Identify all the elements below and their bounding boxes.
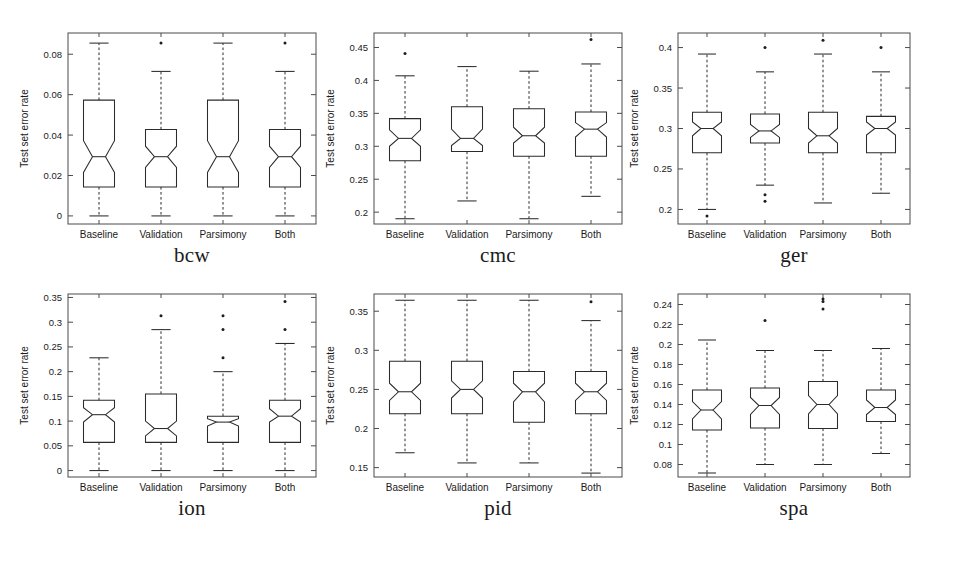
y-tick-label: 0.3 bbox=[49, 317, 62, 328]
y-tick-label: 0.2 bbox=[49, 366, 62, 377]
box-outline bbox=[514, 109, 545, 156]
y-tick-label: 0.24 bbox=[654, 299, 673, 310]
outlier-point bbox=[880, 46, 883, 49]
box-cmc-validation bbox=[452, 67, 483, 201]
y-tick-label: 0.08 bbox=[44, 49, 63, 60]
box-pid-validation bbox=[452, 300, 483, 463]
y-tick-label: 0 bbox=[57, 465, 62, 476]
y-axis-label: Test set error rate bbox=[325, 89, 336, 168]
y-tick-label: 0.1 bbox=[49, 416, 62, 427]
x-tick-label: Validation bbox=[139, 229, 182, 240]
axis-frame bbox=[374, 294, 622, 477]
panel-pid: 0.150.20.250.30.35Test set error rateBas… bbox=[312, 280, 634, 527]
box-pid-baseline bbox=[390, 300, 421, 453]
y-tick-label: 0.02 bbox=[44, 170, 63, 181]
box-outline bbox=[270, 400, 301, 442]
outlier-point bbox=[284, 300, 287, 303]
plot-bcw: 00.020.040.060.08Test set error rateBase… bbox=[6, 19, 328, 274]
box-outline bbox=[146, 394, 177, 442]
plot-cmc: 0.20.250.30.350.40.45Test set error rate… bbox=[312, 19, 634, 274]
panel-caption-ion: ion bbox=[68, 496, 316, 521]
x-tick-label: Baseline bbox=[688, 482, 727, 493]
outlier-point bbox=[160, 314, 163, 317]
y-tick-label: 0.18 bbox=[654, 359, 673, 370]
axis-frame bbox=[68, 33, 316, 224]
plot-ion: 00.050.10.150.20.250.30.35Test set error… bbox=[6, 280, 328, 527]
panel-caption-ger: ger bbox=[678, 243, 910, 268]
box-ion-validation bbox=[146, 314, 177, 470]
box-outline bbox=[452, 107, 483, 152]
panel-ger: 0.20.250.30.350.4Test set error rateBase… bbox=[616, 19, 922, 274]
box-bcw-validation bbox=[146, 42, 177, 216]
x-tick-label: Baseline bbox=[688, 229, 727, 240]
x-tick-label: Both bbox=[871, 229, 892, 240]
box-cmc-both bbox=[576, 38, 607, 196]
x-tick-label: Both bbox=[871, 482, 892, 493]
box-cmc-parsimony bbox=[514, 71, 545, 219]
y-axis-label: Test set error rate bbox=[19, 89, 30, 168]
box-spa-baseline bbox=[693, 340, 722, 473]
box-outline bbox=[146, 129, 177, 187]
y-tick-label: 0.05 bbox=[44, 440, 63, 451]
y-tick-label: 0.15 bbox=[44, 391, 63, 402]
y-tick-label: 0.3 bbox=[355, 345, 368, 356]
x-tick-label: Validation bbox=[743, 482, 786, 493]
y-tick-label: 0.45 bbox=[350, 42, 369, 53]
box-ion-baseline bbox=[84, 358, 115, 471]
panel-caption-bcw: bcw bbox=[68, 243, 316, 268]
y-axis-label: Test set error rate bbox=[325, 346, 336, 425]
y-tick-label: 0.4 bbox=[355, 75, 368, 86]
box-outline bbox=[270, 129, 301, 187]
box-outline bbox=[390, 361, 421, 413]
outlier-point bbox=[222, 328, 225, 331]
box-outline bbox=[84, 100, 115, 187]
x-tick-label: Validation bbox=[139, 482, 182, 493]
panel-caption-spa: spa bbox=[678, 496, 910, 521]
y-tick-label: 0.4 bbox=[659, 42, 672, 53]
axis-frame bbox=[68, 294, 316, 477]
axis-frame bbox=[678, 294, 910, 477]
plot-ger: 0.20.250.30.350.4Test set error rateBase… bbox=[616, 19, 922, 274]
box-bcw-parsimony bbox=[208, 43, 239, 216]
y-tick-label: 0.35 bbox=[350, 306, 369, 317]
box-outline bbox=[452, 361, 483, 413]
box-bcw-both bbox=[270, 42, 301, 216]
panel-caption-pid: pid bbox=[374, 496, 622, 521]
outlier-point bbox=[822, 300, 825, 303]
panel-caption-cmc: cmc bbox=[374, 243, 622, 268]
box-outline bbox=[576, 371, 607, 413]
box-spa-both bbox=[867, 349, 896, 454]
box-pid-both bbox=[576, 300, 607, 473]
plot-pid: 0.150.20.250.30.35Test set error rateBas… bbox=[312, 280, 634, 527]
y-tick-label: 0.1 bbox=[659, 439, 672, 450]
outlier-point bbox=[222, 356, 225, 359]
box-outline bbox=[514, 371, 545, 422]
outlier-point bbox=[404, 52, 407, 55]
x-tick-label: Parsimony bbox=[799, 229, 846, 240]
box-outline bbox=[576, 112, 607, 156]
x-tick-label: Parsimony bbox=[199, 482, 246, 493]
y-tick-label: 0.3 bbox=[355, 141, 368, 152]
box-outline bbox=[693, 112, 722, 152]
outlier-point bbox=[284, 42, 287, 45]
x-tick-label: Both bbox=[581, 482, 602, 493]
y-tick-label: 0.2 bbox=[355, 423, 368, 434]
y-tick-label: 0.2 bbox=[659, 339, 672, 350]
x-tick-label: Parsimony bbox=[505, 229, 552, 240]
box-bcw-baseline bbox=[84, 43, 115, 216]
outlier-point bbox=[590, 38, 593, 41]
outlier-point bbox=[822, 39, 825, 42]
y-axis-label: Test set error rate bbox=[19, 346, 30, 425]
x-tick-label: Baseline bbox=[80, 229, 119, 240]
y-tick-label: 0.25 bbox=[654, 163, 673, 174]
y-axis-label: Test set error rate bbox=[629, 89, 640, 168]
box-cmc-baseline bbox=[390, 52, 421, 219]
outlier-point bbox=[590, 300, 593, 303]
y-tick-label: 0.35 bbox=[654, 83, 673, 94]
x-tick-label: Validation bbox=[445, 482, 488, 493]
box-outline bbox=[867, 116, 896, 152]
x-tick-label: Both bbox=[581, 229, 602, 240]
x-tick-label: Baseline bbox=[386, 229, 425, 240]
y-tick-label: 0.35 bbox=[350, 108, 369, 119]
outlier-point bbox=[160, 42, 163, 45]
